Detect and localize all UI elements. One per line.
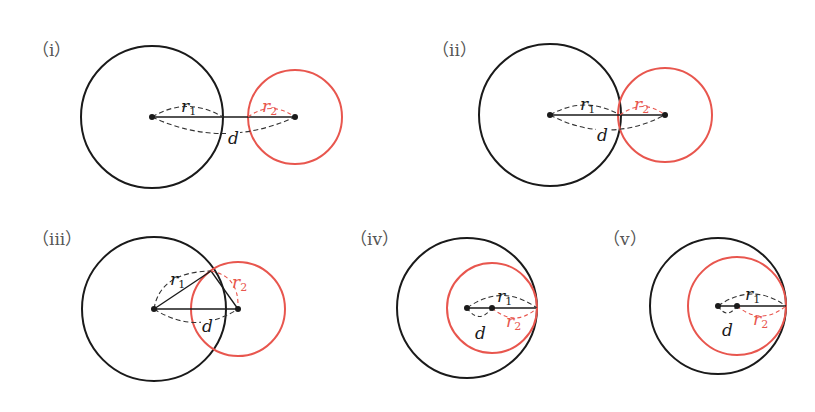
r1-label: r1 (497, 286, 512, 308)
d-label: d (202, 316, 213, 336)
r2-label: r2 (232, 272, 247, 294)
d-arc (718, 306, 737, 313)
center-point-2 (235, 306, 241, 312)
panel-label-iv: （iv） (350, 229, 399, 249)
r1-label: r1 (181, 96, 196, 118)
center-point-2 (489, 305, 495, 311)
panel-label-v: （v） (603, 229, 647, 249)
d-label: d (597, 125, 608, 145)
center-point-1 (464, 305, 470, 311)
r2-arc (737, 306, 786, 316)
panel-ii: （ii） r1 r2 d (432, 40, 712, 186)
center-point-2 (292, 114, 298, 120)
center-point-1 (547, 112, 553, 118)
panel-label-ii: （ii） (432, 40, 477, 60)
r1-label: r1 (170, 269, 185, 291)
d-label: d (228, 128, 239, 148)
r2-label: r2 (634, 94, 649, 116)
r1-label: r1 (745, 284, 760, 306)
center-point-2 (734, 303, 740, 309)
r2-arc (492, 308, 537, 318)
panel-iii: （iii） r1 r2 d (32, 229, 285, 381)
center-point-1 (715, 303, 721, 309)
d-label: d (722, 320, 733, 340)
center-point-2 (662, 112, 668, 118)
panel-iv: （iv） r1 r2 d (350, 229, 537, 378)
panel-label-iii: （iii） (32, 229, 82, 249)
d-label: d (475, 323, 486, 343)
panel-i: （i） r1 r2 d (32, 40, 342, 188)
panel-v: （v） r1 r2 d (603, 229, 786, 374)
r2-label: r2 (506, 311, 521, 333)
r2-label: r2 (753, 309, 768, 331)
r1-label: r1 (580, 94, 595, 116)
center-point-1 (149, 114, 155, 120)
circle-positions-diagram: （i） r1 r2 d （ii） r1 r2 d （iii） (0, 0, 815, 412)
d-arc (467, 308, 492, 317)
center-point-1 (151, 306, 157, 312)
r2-label: r2 (262, 96, 277, 118)
panel-label-i: （i） (32, 40, 71, 60)
